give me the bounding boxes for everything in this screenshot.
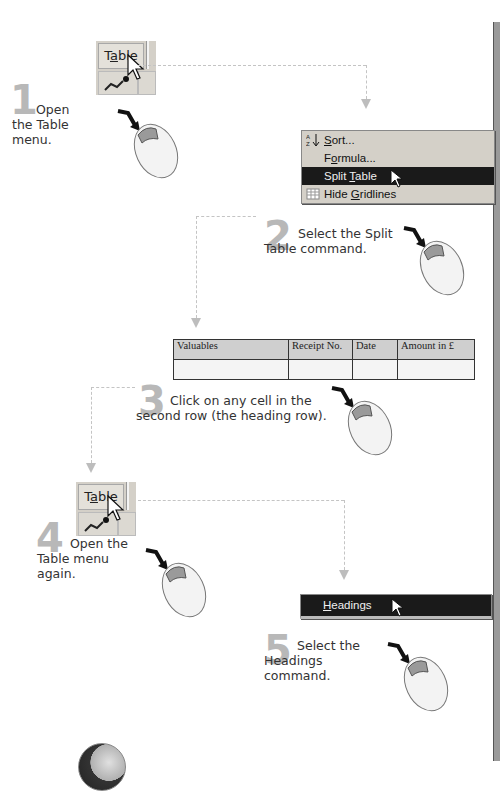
table-menu-button[interactable]: Table bbox=[96, 41, 156, 95]
menu-item-sort[interactable]: AZ Sort... bbox=[302, 131, 494, 149]
table-cell[interactable] bbox=[174, 360, 289, 380]
gridlines-icon bbox=[306, 187, 320, 201]
step-5-line-2: Headings bbox=[264, 653, 323, 668]
step-1-line-2: the Table bbox=[12, 117, 69, 132]
mouse-click-icon bbox=[384, 638, 448, 718]
arrow-down-icon bbox=[191, 318, 201, 328]
cursor-arrow-icon bbox=[391, 598, 405, 618]
step-number-1: 1 bbox=[10, 82, 37, 118]
menu-item-hide-gridlines[interactable]: Hide Gridlines bbox=[302, 185, 494, 203]
svg-text:A: A bbox=[306, 134, 310, 140]
step-1-line-1: Open bbox=[36, 102, 69, 117]
table-cell[interactable]: Date bbox=[353, 340, 398, 360]
connector-line bbox=[91, 387, 92, 463]
mouse-click-icon bbox=[142, 544, 206, 624]
step-3-line-1: Click on any cell in the bbox=[170, 393, 312, 408]
table-cell[interactable] bbox=[398, 360, 475, 380]
table-row[interactable] bbox=[174, 360, 475, 380]
step-1-line-3: menu. bbox=[12, 132, 52, 147]
connector-line bbox=[344, 500, 345, 570]
table-cell[interactable] bbox=[353, 360, 398, 380]
connector-line bbox=[138, 65, 366, 66]
table-cell[interactable]: Valuables bbox=[174, 340, 289, 360]
step-4-line-3: again. bbox=[37, 566, 76, 581]
table-cell[interactable]: Amount in £ bbox=[398, 340, 475, 360]
svg-text:Z: Z bbox=[306, 141, 310, 147]
cursor-arrow-icon bbox=[126, 53, 148, 83]
table-header-row[interactable]: Valuables Receipt No. Date Amount in £ bbox=[174, 340, 475, 360]
step-5-line-3: command. bbox=[264, 668, 330, 683]
connector-line bbox=[138, 500, 344, 501]
arrow-down-icon bbox=[339, 570, 349, 580]
mouse-click-icon bbox=[400, 222, 464, 302]
headings-menu: Headings bbox=[300, 594, 492, 619]
menu-item-headings[interactable]: Headings bbox=[301, 595, 491, 616]
mouse-click-icon bbox=[114, 105, 178, 185]
cursor-arrow-icon bbox=[106, 494, 128, 524]
connector-line bbox=[196, 216, 256, 217]
arrow-down-icon bbox=[361, 99, 371, 109]
step-5-line-1: Select the bbox=[297, 638, 360, 653]
menu-item-formula[interactable]: Formula... bbox=[302, 149, 494, 167]
table-cell[interactable]: Receipt No. bbox=[289, 340, 353, 360]
table-dropdown-menu: AZ Sort... Formula... Split Table Hide G… bbox=[301, 130, 495, 204]
connector-line bbox=[366, 65, 367, 99]
step-2-line-2: Table command. bbox=[264, 241, 367, 256]
connector-line bbox=[196, 216, 197, 318]
step-4-line-2: Table menu bbox=[37, 551, 109, 566]
arrow-down-icon bbox=[86, 463, 96, 473]
step-3-line-2: second row (the heading row). bbox=[136, 408, 327, 423]
menu-item-split-table[interactable]: Split Table bbox=[302, 167, 494, 185]
globe-badge-icon bbox=[78, 743, 126, 791]
word-table: Valuables Receipt No. Date Amount in £ bbox=[173, 339, 475, 380]
step-4-line-1: Open the bbox=[70, 536, 128, 551]
connector-line bbox=[91, 387, 135, 388]
mouse-click-icon bbox=[328, 382, 392, 462]
sort-az-icon: AZ bbox=[306, 133, 320, 147]
step-2-line-1: Select the Split bbox=[298, 226, 393, 241]
table-cell[interactable] bbox=[289, 360, 353, 380]
table-menu-button[interactable]: Table bbox=[76, 482, 136, 536]
